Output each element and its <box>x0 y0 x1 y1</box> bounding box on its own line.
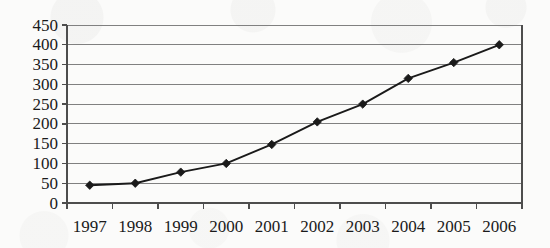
data-point-2002 <box>313 118 321 126</box>
x-axis-labels: 1997199819992000200120022003200420052006 <box>73 217 517 236</box>
y-tick-label-0: 0 <box>50 194 59 213</box>
x-tick-label-1998: 1998 <box>118 217 152 236</box>
y-tick-label-200: 200 <box>33 114 59 133</box>
data-point-2006 <box>495 41 503 49</box>
x-tick-label-2000: 2000 <box>209 217 243 236</box>
y-tick-label-300: 300 <box>33 75 59 94</box>
y-tick-label-50: 50 <box>41 174 58 193</box>
x-tick-label-1997: 1997 <box>73 217 108 236</box>
x-tick-label-2002: 2002 <box>300 217 334 236</box>
data-point-1997 <box>86 181 94 189</box>
data-point-2004 <box>404 74 412 82</box>
data-point-2000 <box>222 159 230 167</box>
plot-frame <box>67 25 522 203</box>
y-tick-label-350: 350 <box>33 55 59 74</box>
gridlines <box>67 25 522 203</box>
series-markers <box>86 41 504 190</box>
chart-canvas: 0501001502002503003504004501997199819992… <box>0 0 550 248</box>
y-tick-label-250: 250 <box>33 95 59 114</box>
series-line <box>90 45 500 185</box>
data-point-2005 <box>450 58 458 66</box>
x-tick-label-1999: 1999 <box>164 217 198 236</box>
y-tick-label-450: 450 <box>33 16 59 35</box>
x-axis-ticks <box>67 203 522 209</box>
y-tick-label-100: 100 <box>33 154 59 173</box>
x-tick-label-2006: 2006 <box>482 217 516 236</box>
data-point-2003 <box>359 100 367 108</box>
data-point-2001 <box>268 140 276 148</box>
data-point-1999 <box>177 168 185 176</box>
x-tick-label-2004: 2004 <box>391 217 426 236</box>
data-point-1998 <box>131 179 139 187</box>
y-tick-label-150: 150 <box>33 134 59 153</box>
y-tick-label-400: 400 <box>33 35 59 54</box>
x-tick-label-2003: 2003 <box>346 217 380 236</box>
y-axis-ticks: 050100150200250300350400450 <box>33 16 68 213</box>
line-chart: 0501001502002503003504004501997199819992… <box>0 0 550 248</box>
x-tick-label-2005: 2005 <box>437 217 471 236</box>
x-tick-label-2001: 2001 <box>255 217 289 236</box>
